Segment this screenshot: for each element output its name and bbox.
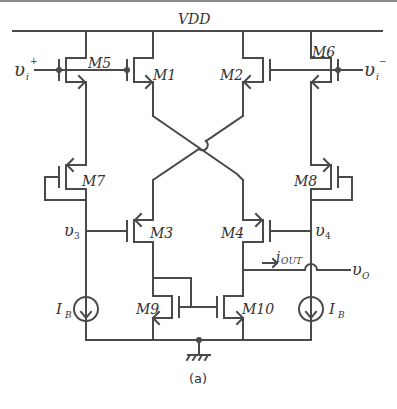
transistor-m10	[179, 280, 243, 340]
transistor-m5	[59, 31, 86, 165]
m5-label: M5	[87, 55, 111, 71]
vin-plus-label: υ	[14, 59, 25, 80]
m9-label: M9	[135, 301, 159, 317]
figure-caption: (a)	[189, 371, 207, 386]
v3-sub: 3	[74, 231, 80, 241]
iout-label: i	[276, 249, 280, 265]
ground-rail	[86, 337, 311, 355]
m1-label: M1	[152, 67, 176, 83]
m10-label: M10	[241, 301, 274, 317]
vout-sub: O	[362, 271, 370, 281]
ib-left-sub: B	[64, 310, 72, 320]
m4-label: M4	[220, 225, 244, 241]
vin-minus-sub: i	[376, 72, 379, 82]
vout-label: υ	[352, 260, 362, 279]
ground-icon	[187, 355, 210, 360]
iout-sub: OUT	[281, 256, 303, 266]
vin-minus-label: υ	[364, 59, 375, 80]
current-source-ib-right	[299, 297, 323, 321]
transistor-m3	[86, 214, 153, 278]
circuit-schematic: VDD M5 M1 υ i + M2 M6	[0, 0, 397, 409]
vin-minus-sup: −	[379, 56, 387, 66]
ib-right-label: I	[328, 300, 336, 318]
v4-sub: 4	[325, 231, 331, 241]
v4-label: υ	[315, 221, 325, 240]
vin-plus-sub: i	[26, 72, 29, 82]
transistor-m2	[243, 31, 270, 116]
ib-left-label: I	[55, 300, 63, 318]
m2-label: M2	[219, 67, 243, 83]
vin-plus-wire	[35, 67, 130, 73]
vdd-label: VDD	[178, 11, 211, 27]
ib-right-sub: B	[337, 310, 345, 320]
vin-plus-sup: +	[30, 56, 38, 66]
current-source-ib-left	[74, 297, 98, 321]
m6-label: M6	[311, 44, 335, 60]
m3-label: M3	[149, 225, 173, 241]
m8-label: M8	[293, 173, 317, 189]
vin-minus-wire	[270, 67, 362, 73]
v3-label: υ	[64, 221, 74, 240]
cross-coupling-wires	[153, 116, 243, 220]
m7-label: M7	[81, 173, 105, 189]
transistor-m1	[127, 31, 153, 116]
